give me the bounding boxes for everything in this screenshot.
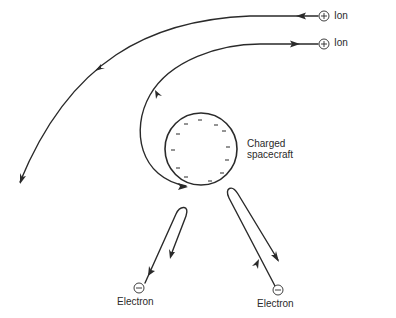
spacecraft-label-line1: Charged [247,138,285,149]
ion-1-label: Ion [334,10,348,21]
arrow-right-icon [178,183,188,190]
electron-1-symbol [134,283,144,293]
arrow-down-icon [271,251,279,262]
electron-2-trajectory [227,188,279,286]
spacecraft-label-line2: spacecraft [247,149,293,160]
ion-2-symbol [319,39,329,49]
electron-1-label: Electron [117,296,154,307]
electron-2-label: Electron [257,298,294,309]
electron-2-symbol [273,285,283,295]
ion-2-label: Ion [334,37,348,48]
arrow-down-icon [155,90,162,99]
arrow-down-left-icon [95,64,105,71]
charged-spacecraft [165,113,237,185]
electron-1-trajectory [145,207,187,283]
arrow-up-icon [252,259,259,269]
ion-1-symbol [319,11,329,21]
